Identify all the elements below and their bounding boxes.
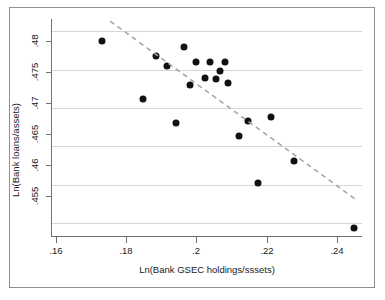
data-point bbox=[268, 114, 275, 121]
y-tick-label-3: .47 bbox=[24, 97, 44, 109]
x-tick-mark-16 bbox=[56, 237, 57, 243]
data-point bbox=[236, 133, 243, 140]
x-tick-mark-24 bbox=[337, 237, 338, 243]
x-tick-mark-20 bbox=[196, 237, 197, 243]
data-point bbox=[225, 80, 232, 87]
y-tick-label-4: .475 bbox=[24, 66, 44, 78]
plot-area bbox=[52, 20, 362, 236]
y-tick-label-1: .46 bbox=[24, 159, 44, 171]
data-point bbox=[206, 58, 213, 65]
y-axis-title-text: Ln(Bank loans/assets) bbox=[10, 103, 21, 197]
y-tick-label-text: .47 bbox=[29, 96, 40, 109]
y-tick-label-text: .465 bbox=[29, 125, 40, 144]
data-point bbox=[222, 58, 229, 65]
data-point bbox=[140, 95, 147, 102]
x-tick-label-3: .22 bbox=[260, 245, 273, 256]
data-point bbox=[187, 81, 194, 88]
scatter-plot-figure: Ln(Bank loans/assets) .455 .46 .465 .47 … bbox=[0, 0, 385, 300]
gridline-y-4 bbox=[52, 70, 362, 71]
gridline-y-3 bbox=[52, 108, 362, 109]
y-tick-label-2: .465 bbox=[24, 128, 44, 140]
x-tick-label-2: .2 bbox=[192, 245, 200, 256]
y-tick-label-text: .48 bbox=[29, 34, 40, 47]
y-tick-label-text: .475 bbox=[29, 63, 40, 82]
data-point bbox=[350, 225, 357, 232]
data-point bbox=[192, 58, 199, 65]
y-tick-label-text: .455 bbox=[29, 187, 40, 206]
data-point bbox=[291, 158, 298, 165]
data-point bbox=[164, 63, 171, 70]
data-point bbox=[153, 53, 160, 60]
data-point bbox=[216, 67, 223, 74]
gridline-y-1 bbox=[52, 185, 362, 186]
y-axis-title: Ln(Bank loans/assets) bbox=[8, 70, 22, 230]
x-axis-title: Ln(Bank GSEC holdings/sssets) bbox=[52, 264, 362, 275]
y-tick-label-5: .48 bbox=[24, 35, 44, 47]
x-tick-label-1: .18 bbox=[119, 245, 132, 256]
data-point bbox=[173, 120, 180, 127]
gridline-y-0 bbox=[52, 223, 362, 224]
x-tick-mark-18 bbox=[126, 237, 127, 243]
y-tick-label-text: .46 bbox=[29, 158, 40, 171]
data-point bbox=[212, 76, 219, 83]
x-tick-label-0: .16 bbox=[49, 245, 62, 256]
gridline-y-2 bbox=[52, 146, 362, 147]
data-point bbox=[244, 118, 251, 125]
x-axis-line bbox=[51, 236, 362, 237]
x-tick-label-4: .24 bbox=[330, 245, 343, 256]
gridline-y-5 bbox=[52, 31, 362, 32]
data-point bbox=[180, 44, 187, 51]
y-tick-label-0: .455 bbox=[24, 190, 44, 202]
data-point bbox=[254, 180, 261, 187]
data-point bbox=[98, 38, 105, 45]
data-point bbox=[202, 74, 209, 81]
x-tick-mark-22 bbox=[267, 237, 268, 243]
